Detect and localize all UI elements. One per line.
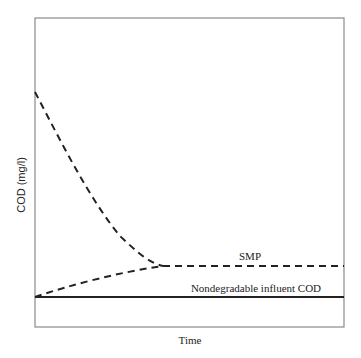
smp-label: SMP	[239, 250, 261, 262]
cod-chart: SMP Nondegradable influent COD Time COD …	[0, 0, 361, 358]
y-axis-label: COD (mg/l)	[15, 157, 27, 213]
x-axis-label: Time	[179, 334, 202, 346]
plot-frame	[35, 18, 344, 327]
nondegradable-label: Nondegradable influent COD	[191, 282, 321, 294]
